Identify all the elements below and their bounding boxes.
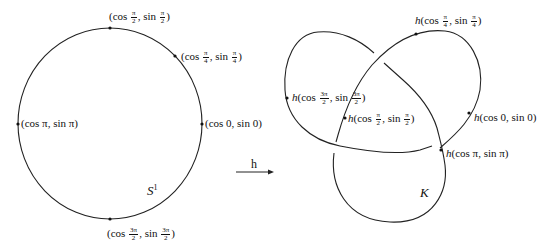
label-pi-over-2: (cos π2, sin π2) [109,10,170,25]
knot-label-pi-over-4: h(cos π4, sin π4) [415,14,481,29]
knot-point-0 [467,111,470,114]
space-label-s1: S1 [147,184,158,197]
label-3pi-over-2: (cos 3π2, sin 3π2) [107,227,175,242]
knot-label-pi-over-2: h(cos π2, sin π2) [348,112,414,127]
point-pi-over-2 [108,26,111,29]
map-label-h: h [251,158,257,170]
knot-point-pi [439,148,442,151]
knot-label-pi: h(cos π, sin π) [446,148,508,159]
point-pi [16,122,19,125]
space-label-k: K [420,186,429,199]
knot-point-3pi-over-2 [285,96,288,99]
knot-label-0: h(cos 0, sin 0) [474,112,536,123]
label-pi: (cos π, sin π) [21,118,78,129]
knot-point-pi-over-4 [414,32,417,35]
label-0: (cos 0, sin 0) [205,118,262,129]
label-pi-over-4: (cos π4, sin π4) [181,50,242,65]
point-0 [200,122,203,125]
point-3pi-over-2 [108,217,111,220]
diagram-canvas [0,0,542,250]
map-arrowhead-icon [268,170,274,175]
knot-point-pi-over-2 [343,116,346,119]
knot-label-3pi-over-2: h(cos 3π2, sin 3π2) [292,91,365,106]
point-pi-over-4 [173,54,176,57]
